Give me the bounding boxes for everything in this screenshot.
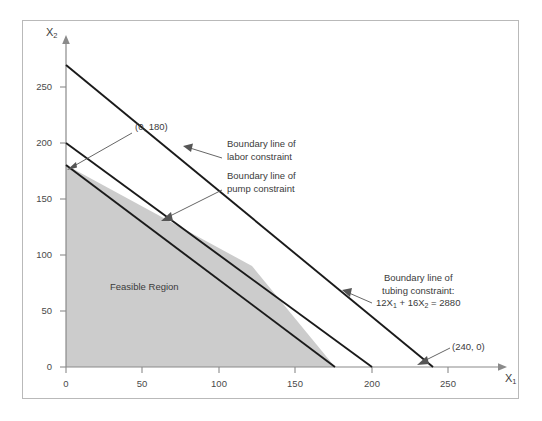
y-tick-label-250: 250 bbox=[22, 81, 52, 92]
y-tick-label-50: 50 bbox=[22, 305, 52, 316]
x-tick-label-100: 100 bbox=[202, 378, 236, 389]
feasible-region-label: Feasible Region bbox=[110, 281, 179, 292]
y-tick-label-200: 200 bbox=[22, 137, 52, 148]
leader-pump-constraint bbox=[161, 190, 222, 221]
labor-callout-line2: labor constraint bbox=[227, 151, 296, 164]
eq-term-c: = 2880 bbox=[428, 297, 460, 308]
y-axis-arrow bbox=[62, 35, 70, 44]
x-axis-arrow bbox=[498, 363, 507, 371]
leader-labor-constraint bbox=[183, 144, 222, 159]
y-tick-label-0: 0 bbox=[22, 361, 52, 372]
x-tick-label-50: 50 bbox=[125, 378, 159, 389]
chart-canvas: X2 X1 250 200 150 100 50 0 0 50 100 150 … bbox=[0, 0, 542, 421]
eq-term-b: + 16X bbox=[397, 297, 425, 308]
plot-svg bbox=[0, 0, 542, 421]
x-tick-label-250: 250 bbox=[431, 378, 465, 389]
annotation-point-0-180: (0, 180) bbox=[135, 121, 168, 134]
tubing-callout-line1: Boundary line of bbox=[376, 272, 460, 285]
y-tick-marks bbox=[60, 87, 66, 367]
annotation-labor-constraint: Boundary line of labor constraint bbox=[227, 138, 296, 163]
labor-callout-line1: Boundary line of bbox=[227, 138, 296, 151]
pump-callout-line1: Boundary line of bbox=[227, 170, 296, 183]
eq-sub-a: 1 bbox=[393, 302, 397, 309]
x-axis-title-sub: 1 bbox=[512, 377, 516, 386]
pump-callout-line2: pump constraint bbox=[227, 183, 296, 196]
y-axis-title: X2 bbox=[46, 26, 58, 38]
y-tick-label-150: 150 bbox=[22, 193, 52, 204]
x-tick-label-150: 150 bbox=[278, 378, 312, 389]
annotation-tubing-constraint: Boundary line of tubing constraint: 12X1… bbox=[376, 272, 460, 311]
annotation-pump-constraint: Boundary line of pump constraint bbox=[227, 170, 296, 195]
x-tick-marks bbox=[66, 367, 448, 373]
y-axis-title-sub: 2 bbox=[53, 31, 57, 40]
leader-point-240-0 bbox=[417, 348, 450, 365]
x-tick-label-0: 0 bbox=[49, 378, 83, 389]
annotation-point-240-0: (240, 0) bbox=[452, 341, 485, 354]
x-axis-title: X1 bbox=[505, 372, 517, 384]
eq-term-a: 12X bbox=[376, 297, 393, 308]
tubing-callout-line2: tubing constraint: bbox=[376, 285, 460, 298]
x-tick-label-200: 200 bbox=[355, 378, 389, 389]
eq-sub-b: 2 bbox=[425, 302, 429, 309]
y-tick-label-100: 100 bbox=[22, 249, 52, 260]
tubing-constraint-equation: 12X1 + 16X2 = 2880 bbox=[376, 297, 460, 311]
